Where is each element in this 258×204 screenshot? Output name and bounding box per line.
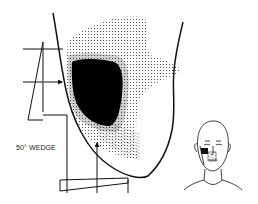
inset-treated-area [200, 146, 216, 165]
dose-distribution-diagram [0, 0, 258, 204]
lateral-wedge-beam [23, 42, 67, 193]
wedge-angle-label: 50° WEDGE [16, 144, 56, 151]
